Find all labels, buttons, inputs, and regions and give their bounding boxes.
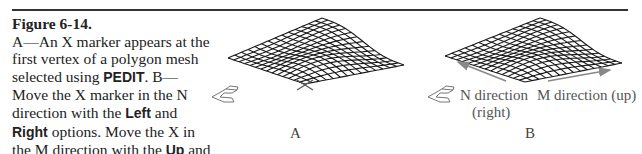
n-direction-label: N direction — [460, 87, 528, 104]
ucs-icon — [428, 86, 454, 102]
m-direction-label: M direction (up) — [537, 87, 636, 104]
figure-b-drawing — [0, 0, 642, 154]
figure-b-label: B — [525, 125, 535, 142]
n-direction-sublabel: (right) — [472, 104, 510, 121]
